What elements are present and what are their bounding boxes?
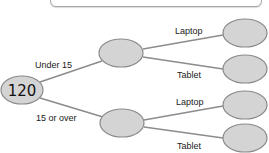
branch-over15-laptop	[144, 106, 223, 120]
label-under-15: Under 15	[35, 60, 72, 70]
root-value: 120	[8, 82, 37, 100]
node-under-15[interactable]	[99, 39, 143, 67]
label-under15-tablet: Tablet	[177, 70, 202, 80]
branch-under15-laptop	[143, 35, 223, 49]
label-over15-tablet: Tablet	[177, 141, 202, 151]
label-15-or-over: 15 or over	[36, 113, 77, 123]
node-15-or-over[interactable]	[100, 109, 144, 137]
branch-over15-tablet	[144, 127, 223, 138]
node-under15-laptop[interactable]	[223, 19, 267, 47]
node-over15-laptop[interactable]	[223, 91, 267, 119]
label-under15-laptop: Laptop	[175, 26, 203, 36]
tree-diagram: 120 Under 15 15 or over Laptop Tablet La…	[0, 0, 269, 153]
label-over15-laptop: Laptop	[176, 97, 204, 107]
branch-under15-tablet	[143, 57, 223, 69]
node-under15-tablet[interactable]	[223, 55, 267, 83]
node-over15-tablet[interactable]	[223, 124, 267, 152]
